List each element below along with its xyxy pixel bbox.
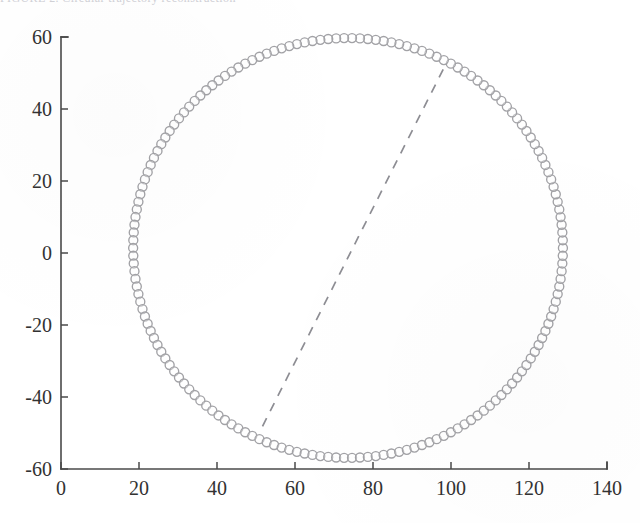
x-tick-label: 80 [363, 477, 383, 499]
x-tick-label: 40 [207, 477, 227, 499]
y-tick-label: 40 [32, 98, 52, 120]
x-tick-label: 100 [436, 477, 466, 499]
y-tick-labels: -60-40-200204060 [25, 26, 52, 480]
y-tick-label: -20 [25, 314, 52, 336]
x-tick-labels: 020406080100120140 [56, 477, 622, 499]
figure-panel: FIGURE 2. Circular trajectory reconstruc… [0, 0, 640, 523]
y-tick-label: -40 [25, 386, 52, 408]
x-tick-label: 0 [56, 477, 66, 499]
x-tick-label: 140 [592, 477, 622, 499]
scatter-plot-svg: -60-40-200204060 020406080100120140 [0, 0, 640, 523]
y-tick-label: 20 [32, 170, 52, 192]
x-axis-ticks [61, 462, 607, 469]
y-tick-label: 0 [42, 242, 52, 264]
x-tick-label: 20 [129, 477, 149, 499]
axes-lines [61, 37, 607, 469]
y-tick-label: 60 [32, 26, 52, 48]
data-markers-layer [129, 34, 568, 463]
y-axis-ticks [61, 37, 68, 469]
chord-dashed-line [262, 69, 443, 427]
y-tick-label: -60 [25, 458, 52, 480]
chord-line-layer [262, 69, 443, 427]
data-point-marker [558, 251, 567, 260]
x-tick-label: 60 [285, 477, 305, 499]
x-tick-label: 120 [514, 477, 544, 499]
